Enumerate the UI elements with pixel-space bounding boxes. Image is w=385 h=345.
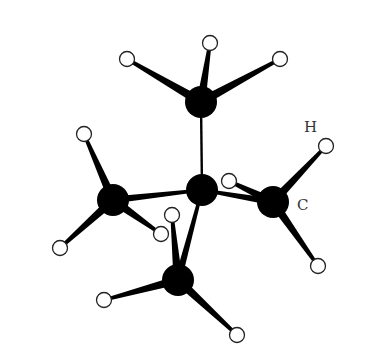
hydrogen-atom bbox=[311, 259, 326, 274]
hydrogen-atom bbox=[77, 127, 92, 142]
hydrogen-atom bbox=[203, 36, 218, 51]
hydrogen-atom bbox=[97, 293, 112, 308]
hydrogen-atom bbox=[222, 174, 237, 189]
hydrogen-atom bbox=[53, 241, 68, 256]
hydrogen-atom bbox=[319, 139, 334, 154]
carbon-atom bbox=[257, 186, 289, 218]
carbon-atom bbox=[162, 264, 194, 296]
carbon-atom bbox=[185, 86, 217, 118]
hydrogen-atom bbox=[230, 328, 245, 343]
hydrogen-atom bbox=[154, 227, 169, 242]
carbon-atom bbox=[186, 174, 218, 206]
hydrogen-atom bbox=[165, 208, 180, 223]
carbon-label: C bbox=[297, 196, 308, 214]
carbon-atom bbox=[97, 184, 129, 216]
molecule-diagram: H C bbox=[0, 0, 385, 345]
hydrogen-atom bbox=[273, 52, 288, 67]
hydrogen-atom bbox=[120, 52, 135, 67]
hydrogen-label: H bbox=[304, 118, 317, 136]
